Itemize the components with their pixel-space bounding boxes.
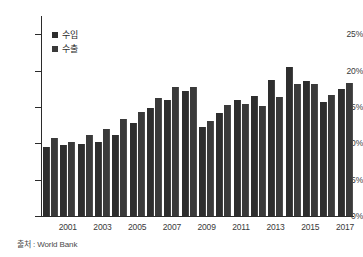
bar-import <box>112 135 119 216</box>
x-axis-tick-label: 2005 <box>128 219 146 235</box>
bar-import <box>216 113 223 216</box>
bar-group <box>198 16 215 216</box>
bar-export <box>86 135 93 216</box>
x-axis-tick-label-empty <box>250 219 267 235</box>
bar-import <box>60 145 67 216</box>
x-axis-tick-label: 2017 <box>336 219 354 235</box>
chart-figure: 0%5%10%15%20%25% 수입 수출 2001 2003 2005 20… <box>0 0 363 257</box>
x-axis-tick-label: 2011 <box>232 219 249 235</box>
bar-group <box>302 16 319 216</box>
x-axis-tick-label-empty <box>319 219 336 235</box>
bar-import <box>130 123 137 216</box>
bar-export <box>242 104 249 216</box>
bar-import <box>320 102 327 216</box>
x-axis-labels: 2001 2003 2005 2007 2009 2011 2013 2015 … <box>42 219 354 235</box>
x-axis-tick-label-empty <box>216 219 233 235</box>
x-axis-tick-label: 2007 <box>163 219 181 235</box>
bar-import <box>43 147 50 216</box>
x-axis-tick-label: 2001 <box>59 219 77 235</box>
bar-group <box>250 16 267 216</box>
bar-import <box>78 144 85 216</box>
x-axis-tick-label-empty <box>111 219 128 235</box>
bar-group <box>94 16 111 216</box>
bar-group <box>285 16 302 216</box>
bar-export <box>224 105 231 216</box>
x-axis-tick-label-empty <box>42 219 59 235</box>
x-axis-tick-label: 2015 <box>301 219 319 235</box>
bar-import <box>164 100 171 216</box>
y-axis-tick <box>35 180 41 181</box>
x-axis-line <box>41 216 354 217</box>
bar-import <box>251 96 258 216</box>
y-axis-tick <box>35 34 41 35</box>
bar-export <box>207 121 214 216</box>
y-axis-tick <box>35 107 41 108</box>
bar-group <box>146 16 163 216</box>
y-axis-tick <box>35 71 41 72</box>
bar-group <box>42 16 59 216</box>
bar-import <box>286 67 293 216</box>
bar-group <box>181 16 198 216</box>
bar-export <box>346 83 353 216</box>
bar-import <box>199 127 206 216</box>
x-axis-tick-label: 2009 <box>198 219 216 235</box>
bar-import <box>147 108 154 216</box>
bar-export <box>328 95 335 216</box>
bar-import <box>303 81 310 216</box>
bar-export <box>155 98 162 216</box>
x-axis-tick-label-empty <box>181 219 198 235</box>
bar-group <box>319 16 336 216</box>
bar-group <box>233 16 250 216</box>
bar-export <box>190 87 197 216</box>
source-caption: 출처 : World Bank <box>17 238 77 249</box>
x-axis-tick-label: 2003 <box>93 219 111 235</box>
bar-export <box>294 84 301 216</box>
bar-export <box>103 129 110 216</box>
bar-group <box>77 16 94 216</box>
bar-export <box>138 112 145 216</box>
bar-group <box>59 16 76 216</box>
bar-export <box>51 138 58 216</box>
y-axis-tick <box>35 216 41 217</box>
x-axis-tick-label-empty <box>77 219 94 235</box>
bar-import <box>268 80 275 216</box>
bar-export <box>311 84 318 216</box>
bar-group <box>267 16 284 216</box>
bar-group <box>337 16 354 216</box>
bar-import <box>182 91 189 216</box>
bar-group <box>215 16 232 216</box>
bar-export <box>120 119 127 216</box>
x-axis-tick-label: 2013 <box>266 219 284 235</box>
bar-group <box>129 16 146 216</box>
bar-group <box>163 16 180 216</box>
bar-group <box>111 16 128 216</box>
x-axis-tick-label-empty <box>285 219 302 235</box>
y-axis-tick <box>35 143 41 144</box>
bar-export <box>172 87 179 216</box>
bar-export <box>276 97 283 216</box>
bar-export <box>68 142 75 216</box>
bar-import <box>95 142 102 216</box>
bar-series-container <box>42 16 354 216</box>
x-axis-tick-label-empty <box>146 219 163 235</box>
bar-import <box>234 100 241 216</box>
bar-import <box>338 89 345 216</box>
bar-export <box>259 106 266 216</box>
